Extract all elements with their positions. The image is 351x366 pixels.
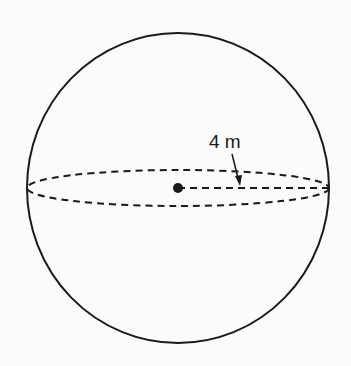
radius-label: 4 m [209,131,241,152]
arrowhead-icon [235,175,242,186]
sphere-diagram: 4 m [0,0,351,366]
center-point [173,183,183,193]
